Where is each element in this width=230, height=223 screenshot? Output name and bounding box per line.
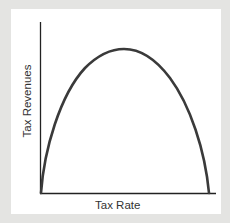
tax-revenue-curve: [41, 49, 209, 193]
x-axis-label: Tax Rate: [95, 199, 140, 211]
laffer-curve-chart: [0, 0, 230, 223]
y-axis-label: Tax Revenues: [21, 51, 33, 151]
